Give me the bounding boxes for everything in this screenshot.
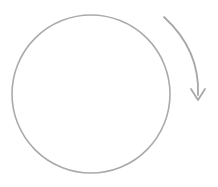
diagram-canvas (0, 0, 218, 187)
canvas-background (0, 0, 218, 187)
rotation-diagram-svg (0, 0, 218, 187)
